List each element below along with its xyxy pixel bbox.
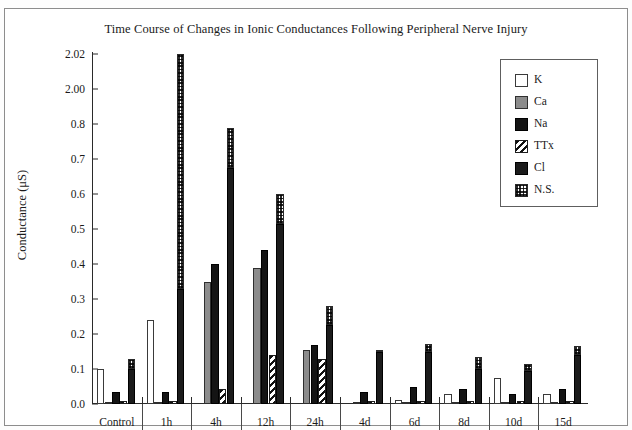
bar-stacked-24h — [326, 306, 333, 404]
x-tick-label-control: Control — [92, 416, 142, 428]
x-tick-label-12h: 12h — [241, 416, 291, 428]
bar-ns-15d — [574, 346, 581, 355]
legend-swatch-solid-black — [515, 118, 528, 131]
y-tick-label-0.7: 0.7 — [71, 153, 92, 165]
x-tick-label-10d: 10d — [489, 416, 539, 428]
legend-item-ttx: TTx — [515, 135, 597, 157]
bar-na-1h — [162, 392, 169, 404]
bar-group-8d: 8d — [439, 52, 489, 404]
bar-cl-8d — [475, 369, 482, 404]
bar-ca-12h — [253, 268, 260, 405]
legend-item-ca: Ca — [515, 91, 597, 113]
bar-k-1h — [147, 320, 154, 404]
bar-ns-4h — [227, 128, 234, 168]
bar-ca-4d — [353, 402, 360, 404]
bar-ns-4d — [376, 350, 383, 352]
bar-k-control — [97, 369, 104, 404]
bar-ttx-15d — [566, 401, 573, 405]
bar-stacked-1h — [177, 54, 184, 404]
bar-ttx-1h — [169, 401, 176, 404]
bar-cl-4h — [227, 168, 234, 404]
bar-cl-10d — [524, 371, 531, 404]
bar-na-4h — [211, 264, 218, 404]
x-tick-label-24h: 24h — [290, 416, 340, 428]
y-tick-label-0.3: 0.3 — [71, 293, 92, 305]
bar-na-4d — [360, 392, 367, 404]
x-group-separator — [439, 404, 440, 430]
x-tick-mark — [390, 397, 391, 404]
x-group-separator — [340, 404, 341, 430]
legend-swatch-checkerboard — [515, 184, 528, 197]
bar-stacked-control — [128, 359, 135, 405]
bar-na-24h — [311, 345, 318, 405]
bar-ca-1h — [154, 402, 161, 404]
bar-cl-control — [128, 369, 135, 404]
y-tick-label-0.0: 0.0 — [71, 398, 92, 410]
legend: KCaNaTTxClN.S. — [500, 59, 598, 207]
legend-swatch-solid-gray — [515, 96, 528, 109]
x-group-separator — [191, 404, 192, 430]
x-group-separator — [241, 404, 242, 430]
bar-k-15d — [543, 394, 550, 405]
x-group-separator — [538, 404, 539, 430]
bar-ttx-6d — [417, 401, 424, 405]
bar-ttx-10d — [517, 401, 524, 405]
bar-cl-1h — [177, 289, 184, 405]
bar-cl-4d — [376, 352, 383, 404]
bar-ns-6d — [425, 344, 432, 352]
bar-group-12h: 12h — [241, 52, 291, 404]
bar-cl-12h — [276, 224, 283, 404]
bar-stacked-4d — [376, 350, 383, 404]
bar-group-4d: 4d — [340, 52, 390, 404]
x-tick-mark — [191, 397, 192, 404]
legend-item-ns: N.S. — [515, 179, 597, 201]
legend-label: TTx — [534, 140, 554, 152]
bar-ttx-control — [120, 401, 127, 405]
y-tick-label-2.00: 2.00 — [65, 83, 92, 95]
bar-ttx-24h — [318, 359, 325, 405]
bar-na-8d — [459, 389, 466, 404]
bar-ns-8d — [475, 357, 482, 369]
bar-na-6d — [410, 387, 417, 405]
bar-na-12h — [261, 250, 268, 404]
bar-cl-6d — [425, 352, 432, 404]
x-group-separator — [142, 404, 143, 430]
bar-ns-12h — [276, 194, 283, 224]
y-tick-label-0.4: 0.4 — [71, 258, 92, 270]
bar-ca-6d — [402, 402, 409, 404]
legend-swatch-solid-dark — [515, 162, 528, 175]
bar-stacked-12h — [276, 194, 283, 404]
chart-figure: Time Course of Changes in Ionic Conducta… — [0, 0, 632, 430]
x-tick-label-4d: 4d — [340, 416, 390, 428]
bar-k-8d — [444, 394, 451, 405]
bar-ns-control — [128, 359, 135, 370]
x-tick-label-15d: 15d — [538, 416, 588, 428]
y-tick-label-0.6: 0.6 — [71, 188, 92, 200]
bar-ca-15d — [551, 402, 558, 404]
bar-group-6d: 6d — [390, 52, 440, 404]
bar-ttx-8d — [467, 401, 474, 404]
y-axis-label: Conductance (μS) — [15, 115, 30, 315]
bar-ns-24h — [326, 306, 333, 325]
x-group-separator — [390, 404, 391, 430]
x-group-separator — [290, 404, 291, 430]
bar-ca-control — [105, 402, 112, 404]
y-tick-label-2.02: 2.02 — [65, 48, 92, 60]
bar-stacked-15d — [574, 346, 581, 404]
legend-item-cl: Cl — [515, 157, 597, 179]
y-tick-label-0.5: 0.5 — [71, 223, 92, 235]
x-tick-mark — [290, 397, 291, 404]
x-tick-label-4h: 4h — [191, 416, 241, 428]
bar-stacked-10d — [524, 364, 531, 404]
bar-stacked-4h — [227, 128, 234, 405]
x-tick-label-1h: 1h — [142, 416, 192, 428]
legend-swatch-diagonal-hatch — [515, 140, 528, 153]
bar-cl-24h — [326, 325, 333, 404]
x-tick-mark — [142, 397, 143, 404]
legend-item-k: K — [515, 69, 597, 91]
legend-label: Cl — [534, 162, 545, 174]
bar-ca-24h — [303, 350, 310, 404]
x-tick-mark — [92, 397, 93, 404]
chart-title: Time Course of Changes in Ionic Conducta… — [0, 22, 632, 37]
bar-na-10d — [509, 394, 516, 405]
